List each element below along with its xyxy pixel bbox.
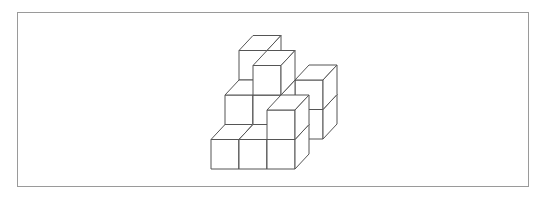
cube-stack-diagram [0,0,549,199]
cube-front-face [211,140,239,170]
cube-front-face [267,110,295,140]
cube-front-face [267,140,295,170]
cube-front-face [239,140,267,170]
cube-front-face [225,95,253,125]
cube-front-face [253,66,281,96]
